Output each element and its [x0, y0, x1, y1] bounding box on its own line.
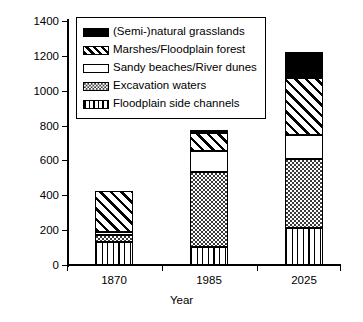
bar-segment: [285, 135, 323, 159]
y-tick-label: 400: [40, 189, 59, 201]
legend-item: Marshes/Floodplain forest: [83, 41, 257, 59]
legend-swatch: [83, 82, 109, 91]
y-tick-label: 0: [53, 259, 59, 271]
legend-item: Excavation waters: [83, 77, 257, 95]
y-tick-label: 1200: [33, 50, 59, 62]
x-tick-label: 1870: [84, 274, 144, 286]
legend-swatch: [83, 64, 109, 73]
x-tick-mark: [162, 264, 163, 271]
y-tick-label: 1000: [33, 85, 59, 97]
chart-legend: (Semi-)natural grasslandsMarshes/Floodpl…: [76, 17, 266, 119]
legend-label: Excavation waters: [113, 80, 206, 92]
x-tick-mark: [257, 264, 258, 271]
y-tick-mark: [62, 56, 68, 57]
bar-segment: [95, 242, 133, 265]
bar-segment: [190, 133, 228, 150]
legend-swatch: [83, 100, 109, 109]
legend-item: Sandy beaches/River dunes: [83, 59, 257, 77]
bar-segment: [95, 191, 133, 232]
x-tick-mark: [67, 264, 68, 271]
y-tick-mark: [62, 126, 68, 127]
legend-label: Floodplain side channels: [113, 98, 240, 110]
bar-stack: [285, 21, 323, 265]
y-tick-mark: [62, 21, 68, 22]
bar-segment: [190, 130, 228, 133]
x-tick-mark: [340, 264, 341, 271]
bar-segment: [190, 172, 228, 247]
legend-item: (Semi-)natural grasslands: [83, 23, 257, 41]
bar-segment: [190, 247, 228, 265]
x-tick-label: 1985: [179, 274, 239, 286]
y-tick-mark: [62, 230, 68, 231]
bar-segment: [95, 232, 133, 235]
y-tick-label: 600: [40, 154, 59, 166]
legend-item: Floodplain side channels: [83, 95, 257, 113]
bar-segment: [190, 151, 228, 172]
bar-segment: [95, 235, 133, 242]
y-tick-label: 800: [40, 120, 59, 132]
x-axis-title: Year: [0, 294, 363, 306]
bar-segment: [285, 78, 323, 136]
legend-swatch: [83, 28, 109, 37]
legend-swatch: [83, 46, 109, 55]
bar-segment: [285, 159, 323, 228]
chart-figure: Acreage (ha) Year 0200400600800100012001…: [0, 0, 363, 322]
legend-label: Sandy beaches/River dunes: [113, 62, 257, 74]
legend-label: Marshes/Floodplain forest: [113, 44, 245, 56]
y-tick-mark: [62, 160, 68, 161]
bar-segment: [285, 228, 323, 265]
y-tick-mark: [62, 91, 68, 92]
y-tick-mark: [62, 195, 68, 196]
y-tick-label: 1400: [33, 15, 59, 27]
bar-segment: [285, 52, 323, 77]
legend-label: (Semi-)natural grasslands: [113, 26, 245, 38]
y-tick-label: 200: [40, 224, 59, 236]
x-tick-label: 2025: [274, 274, 334, 286]
